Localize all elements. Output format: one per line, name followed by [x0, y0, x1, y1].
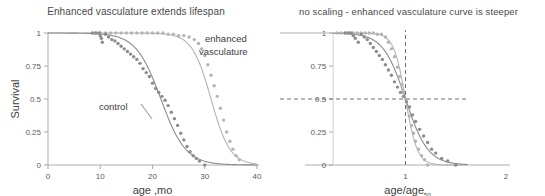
data-point [426, 141, 429, 144]
data-point [182, 34, 185, 37]
data-point [393, 80, 396, 83]
data-point [177, 34, 180, 37]
data-point [387, 68, 390, 71]
left-y-tick-label: 0 [37, 161, 42, 170]
data-point [390, 47, 393, 50]
data-point [454, 163, 457, 166]
right-x-tick-label: 1 [403, 172, 408, 181]
data-point [238, 158, 241, 161]
data-point [176, 124, 179, 127]
control-label: control [99, 101, 128, 112]
right-y-tick-label: 0.25 [311, 128, 327, 137]
panel-right: no scaling - enhanced vasculature curve … [272, 0, 545, 196]
data-point [393, 55, 396, 58]
data-point [369, 42, 372, 45]
data-point [228, 140, 231, 143]
data-point [420, 154, 423, 157]
data-point [372, 31, 375, 34]
left-y-tick-label: 1 [37, 29, 42, 38]
data-point [129, 52, 132, 55]
data-point [135, 58, 138, 61]
data-point [376, 33, 379, 36]
data-point [366, 38, 369, 41]
data-point [219, 107, 222, 110]
data-point [430, 147, 433, 150]
right-chart-svg: 00.250.50.75112age/age50 [272, 0, 545, 196]
data-point [109, 31, 112, 34]
right-x-axis-label: age/age50 [384, 184, 431, 196]
data-point [101, 41, 104, 44]
data-point [372, 46, 375, 49]
data-point [135, 31, 138, 34]
data-point [197, 42, 200, 45]
data-point [125, 31, 128, 34]
data-point [354, 37, 357, 40]
data-point [384, 35, 387, 38]
left-points-control [91, 31, 207, 166]
data-point [192, 154, 195, 157]
data-point [113, 39, 116, 42]
data-point [203, 163, 206, 166]
left-x-tick-label: 10 [96, 172, 105, 181]
right-y-tick-label: 0.75 [311, 62, 327, 71]
data-point [151, 31, 154, 34]
data-point [157, 91, 160, 94]
data-point [132, 55, 135, 58]
x-axis-label-main: age/age [384, 184, 424, 196]
data-point [398, 75, 401, 78]
data-point [170, 111, 173, 114]
data-point [408, 114, 411, 117]
data-point [411, 113, 414, 116]
data-point [140, 31, 143, 34]
control-leader-line [141, 104, 152, 119]
left-y-tick-label: 0.5 [30, 95, 42, 104]
data-point [378, 54, 381, 57]
data-point [387, 41, 390, 44]
data-point [231, 147, 234, 150]
data-point [414, 140, 417, 143]
data-point [198, 159, 201, 162]
data-point [410, 124, 413, 127]
data-point [166, 33, 169, 36]
data-point [426, 163, 429, 166]
data-point [94, 31, 97, 34]
data-point [396, 85, 399, 88]
data-point [212, 84, 215, 87]
data-point [123, 47, 126, 50]
data-point [138, 62, 141, 65]
data-point [364, 31, 367, 34]
data-point [188, 150, 191, 153]
data-point [156, 31, 159, 34]
data-point [357, 41, 360, 44]
data-point [360, 33, 363, 36]
data-point [408, 105, 411, 108]
data-point [216, 95, 219, 98]
data-point [107, 35, 110, 38]
data-point [225, 130, 228, 133]
panel-left: Enhanced vasculature extends lifespan 00… [0, 0, 272, 196]
data-point [347, 31, 350, 34]
left-chart-svg: 00.250.50.751010203040age ,moSurvivalenh… [0, 0, 272, 196]
data-point [163, 99, 166, 102]
data-point [356, 31, 359, 34]
data-point [160, 95, 163, 98]
enhanced-vasculature-label: enhanced [205, 33, 247, 44]
data-point [402, 95, 405, 98]
left-y-tick-label: 0.25 [25, 128, 41, 137]
data-point [375, 50, 378, 53]
data-point [400, 83, 403, 86]
data-point [417, 147, 420, 150]
data-point [187, 35, 190, 38]
left-y-tick-label: 0.75 [25, 62, 41, 71]
data-point [104, 33, 107, 36]
data-point [206, 63, 209, 66]
left-x-tick-label: 30 [200, 172, 209, 181]
data-point [335, 31, 338, 34]
data-point [151, 81, 154, 84]
data-point [423, 158, 426, 161]
data-point [173, 117, 176, 120]
data-point [422, 134, 425, 137]
figure-root: Enhanced vasculature extends lifespan 00… [0, 0, 545, 196]
data-point [130, 31, 133, 34]
data-point [434, 151, 437, 154]
